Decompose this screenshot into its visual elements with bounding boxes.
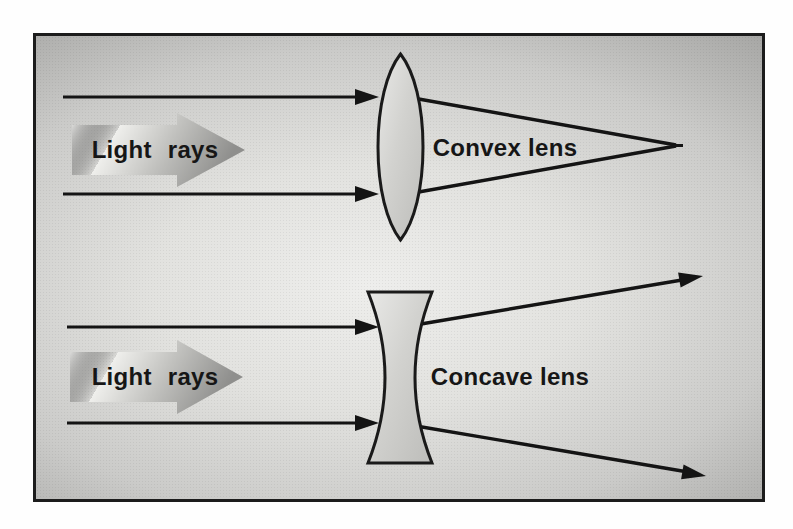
- optics-svg: [0, 0, 793, 529]
- concave-incident-ray-bottom-arrowhead-icon: [355, 415, 379, 431]
- concave-diverging-ray-upper-arrowhead-icon: [678, 273, 703, 288]
- convex-lens-label: Convex lens: [425, 135, 585, 161]
- convex-incident-ray-top-arrowhead-icon: [355, 89, 379, 105]
- concave-incident-ray-top-arrowhead-icon: [355, 319, 379, 335]
- concave-diverging-ray-lower-arrowhead-icon: [681, 465, 706, 480]
- convex-lens-shape-icon: [378, 54, 423, 240]
- convex-incident-ray-bottom-arrowhead-icon: [355, 186, 379, 202]
- concave-diverging-ray-upper: [415, 280, 682, 325]
- concave-diverging-ray-lower: [416, 426, 685, 472]
- concave-light-rays-label: Light rays: [75, 364, 235, 390]
- concave-lens-shape-icon: [368, 292, 432, 463]
- concave-lens-label: Concave lens: [425, 364, 595, 390]
- convex-light-rays-label: Light rays: [75, 137, 235, 163]
- diagram-canvas: Light rays Convex lens Light rays Concav…: [0, 0, 793, 529]
